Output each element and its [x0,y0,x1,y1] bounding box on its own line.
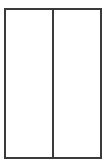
left-pane-content [6,10,52,157]
right-pane-content [54,10,100,157]
outer-frame [4,8,102,159]
diagram-canvas [0,0,106,165]
right-pane[interactable] [54,10,100,157]
left-pane[interactable] [6,10,54,157]
